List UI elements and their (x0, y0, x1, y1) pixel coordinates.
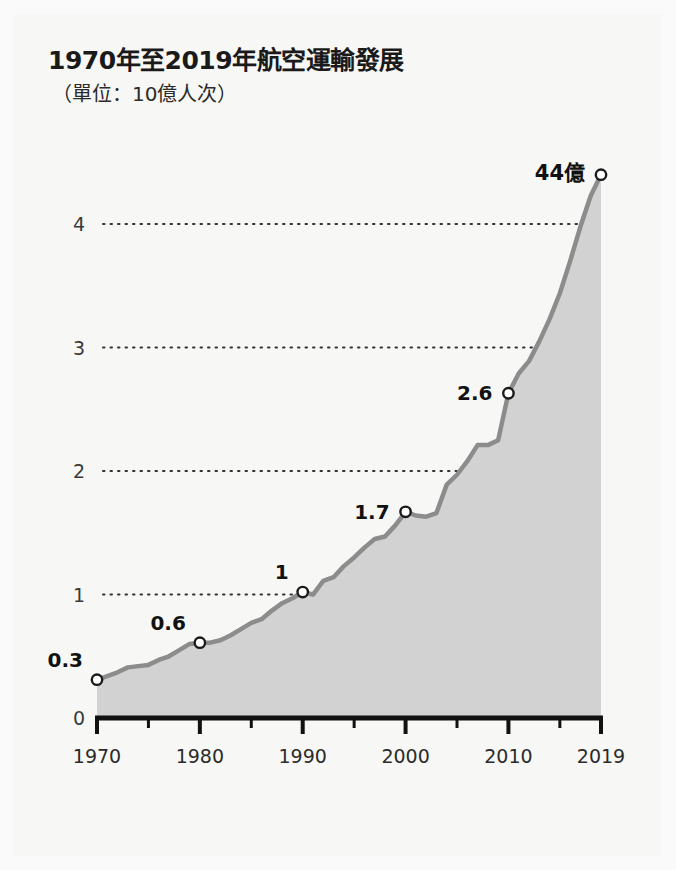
area-chart-plot (0, 0, 676, 870)
data-point-marker (503, 388, 513, 398)
x-axis-tick-label: 2000 (366, 745, 446, 767)
data-point-value-label: 1 (275, 560, 289, 584)
chart-page: 1970年至2019年航空運輸發展 （單位：10億人次） 01234 19701… (0, 0, 676, 870)
y-axis-tick-label: 0 (45, 707, 85, 729)
y-axis-tick-label: 4 (45, 213, 85, 235)
data-point-marker (298, 587, 308, 597)
y-axis-tick-label: 3 (45, 337, 85, 359)
data-point-value-label: 0.6 (150, 611, 185, 635)
x-axis-tick-label: 1970 (57, 745, 137, 767)
area-fill-path (97, 175, 601, 718)
data-point-value-label: 1.7 (354, 500, 389, 524)
data-point-marker (92, 675, 102, 685)
x-axis-tick-label: 1980 (160, 745, 240, 767)
data-point-marker (195, 637, 205, 647)
x-axis-tick-label: 1990 (263, 745, 343, 767)
data-point-value-label: 44億 (535, 156, 585, 186)
data-point-value-label: 2.6 (457, 381, 492, 405)
x-axis-tick-label: 2019 (561, 745, 641, 767)
y-axis-tick-label: 1 (45, 584, 85, 606)
y-axis-tick-label: 2 (45, 460, 85, 482)
data-point-marker (400, 507, 410, 517)
x-axis-tick-label: 2010 (468, 745, 548, 767)
data-point-marker (596, 169, 606, 179)
data-point-value-label: 0.3 (48, 648, 83, 672)
x-axis-group (95, 718, 603, 734)
